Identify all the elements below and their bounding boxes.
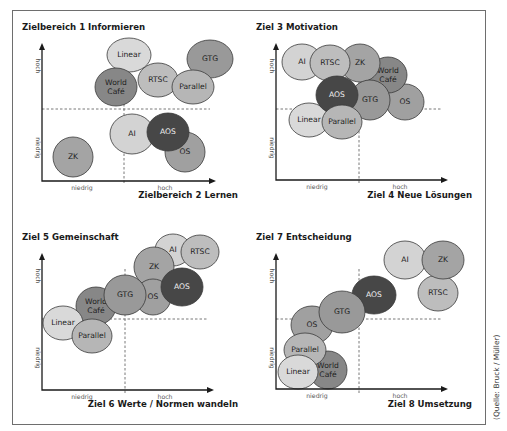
bubble-label: ZK <box>438 255 449 264</box>
bubble-label: ZK <box>149 262 160 271</box>
bubble-group: AIRTSCZKAOSOSGTGWorldCaféParallelLinear <box>278 241 464 389</box>
bubble-label: Café <box>107 87 125 96</box>
bubble-label: Café <box>319 370 337 379</box>
x-tick-low: niedrig <box>306 183 328 191</box>
bubble-label: Café <box>379 75 397 84</box>
chart-panel-2: Ziel 3 MotivationAIOSWorldCaféZKRTSCGTGL… <box>256 22 472 200</box>
bubble-label: AOS <box>174 282 190 291</box>
bubble-group: AIRTSCZKOSAOSWorldCaféGTGLinearParallel <box>43 234 219 353</box>
y-tick-low: niedrig <box>268 347 276 369</box>
bubble-label: AOS <box>329 90 345 99</box>
bubble-parallel: Parallel <box>172 70 214 104</box>
bubble-label: GTG <box>334 307 350 316</box>
bubble-label: AI <box>128 129 135 138</box>
bubble-group: AIOSWorldCaféZKRTSCGTGLinearAOSParallel <box>282 44 424 139</box>
bubble-label: GTG <box>202 54 218 63</box>
chart-panel-3: Ziel 5 GemeinschaftAIRTSCZKOSAOSWorldCaf… <box>22 232 238 409</box>
bubble-label: OS <box>400 97 411 106</box>
bubble-parallel: Parallel <box>72 319 112 353</box>
chart-grid: Zielbereich 1 InformierenZKLinearWorldCa… <box>22 22 472 409</box>
bubble-label: RTSC <box>148 75 168 84</box>
bubble-label: World <box>377 66 399 75</box>
y-tick-high: hoch <box>269 268 276 283</box>
x-axis-arrow-icon <box>207 387 214 393</box>
bubble-label: ZK <box>68 152 79 161</box>
y-tick-high: hoch <box>35 58 42 73</box>
chart-panel-1: Zielbereich 1 InformierenZKLinearWorldCa… <box>22 22 238 200</box>
bubble-label: Parallel <box>328 117 356 126</box>
chart-title: Ziel 3 Motivation <box>256 22 338 32</box>
x-tick-high: hoch <box>392 392 407 399</box>
bubble-label: GTG <box>362 95 378 104</box>
figure-frame <box>13 11 486 425</box>
x-axis-title: Ziel 6 Werte / Normen wandeln <box>88 399 238 409</box>
diagram-canvas: Zielbereich 1 InformierenZKLinearWorldCa… <box>0 0 507 431</box>
x-axis-title: Zielbereich 2 Lernen <box>138 190 238 200</box>
bubble-world-caf-: WorldCafé <box>95 68 137 106</box>
bubble-label: Café <box>87 306 105 315</box>
bubble-label: AI <box>169 245 176 254</box>
chart-title: Zielbereich 1 Informieren <box>22 22 145 32</box>
bubble-label: Linear <box>297 115 321 124</box>
x-tick-low: niedrig <box>306 392 328 400</box>
x-axis-arrow-icon <box>441 177 448 183</box>
x-axis-title: Ziel 8 Umsetzung <box>388 399 472 409</box>
y-axis-arrow-icon <box>273 253 279 260</box>
x-tick-low: niedrig <box>71 184 93 192</box>
y-tick-low: niedrig <box>34 347 42 369</box>
bubble-label: AOS <box>160 127 176 136</box>
source-note: (Quelle: Bruck / Müller) <box>492 334 501 420</box>
bubble-aos: AOS <box>147 113 189 151</box>
bubble-rtsc: RTSC <box>138 63 178 97</box>
bubble-label: Linear <box>51 318 75 327</box>
bubble-rtsc: RTSC <box>181 235 219 269</box>
bubble-gtg: GTG <box>104 275 146 315</box>
y-axis-arrow-icon <box>273 43 279 50</box>
bubble-linear: Linear <box>278 355 318 389</box>
bubble-label: RTSC <box>428 288 448 297</box>
bubble-label: RTSC <box>320 58 340 67</box>
bubble-label: AI <box>401 255 408 264</box>
x-axis-arrow-icon <box>209 178 216 184</box>
bubble-gtg: GTG <box>319 291 365 333</box>
y-tick-high: hoch <box>269 58 276 73</box>
bubble-label: ZK <box>355 58 366 67</box>
y-tick-low: niedrig <box>34 137 42 159</box>
y-axis-arrow-icon <box>39 253 45 260</box>
bubble-ai: AI <box>384 241 426 279</box>
bubble-label: AI <box>298 57 305 66</box>
x-axis-title: Ziel 4 Neue Lösungen <box>367 190 472 200</box>
bubble-label: Linear <box>117 50 141 59</box>
bubble-aos: AOS <box>161 268 203 306</box>
x-tick-high: hoch <box>392 183 407 190</box>
bubble-group: ZKLinearWorldCaféGTGRTSCParallelAIOSAOS <box>53 38 233 177</box>
chart-panel-4: Ziel 7 EntscheidungAIRTSCZKAOSOSGTGWorld… <box>256 232 472 409</box>
y-tick-high: hoch <box>35 268 42 283</box>
bubble-rtsc: RTSC <box>310 45 350 81</box>
bubble-label: Parallel <box>291 345 319 354</box>
bubble-label: OS <box>307 320 318 329</box>
bubble-rtsc: RTSC <box>418 275 458 311</box>
chart-title: Ziel 7 Entscheidung <box>256 232 352 242</box>
bubble-label: AOS <box>366 290 382 299</box>
bubble-label: GTG <box>117 290 133 299</box>
chart-title: Ziel 5 Gemeinschaft <box>22 232 119 242</box>
bubble-label: World <box>105 78 127 87</box>
bubble-linear: Linear <box>107 38 151 72</box>
x-axis-arrow-icon <box>441 386 448 392</box>
bubble-label: Linear <box>286 367 310 376</box>
bubble-label: OS <box>148 292 159 301</box>
bubble-label: RTSC <box>190 247 210 256</box>
bubble-label: OS <box>180 147 191 156</box>
bubble-label: World <box>85 297 107 306</box>
bubble-parallel: Parallel <box>322 105 362 139</box>
y-axis-arrow-icon <box>39 43 45 50</box>
bubble-zk: ZK <box>53 137 93 177</box>
y-tick-low: niedrig <box>268 137 276 159</box>
bubble-label: Parallel <box>179 82 207 91</box>
bubble-label: Parallel <box>78 331 106 340</box>
bubble-zk: ZK <box>422 241 464 279</box>
